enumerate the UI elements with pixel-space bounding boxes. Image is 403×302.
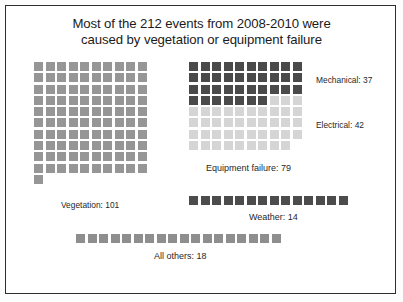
vegetation-cell bbox=[103, 96, 112, 105]
vegetation-cell bbox=[138, 152, 147, 161]
electrical-cell bbox=[189, 130, 198, 139]
mechanical-cell bbox=[247, 85, 256, 94]
weather-cell bbox=[270, 196, 279, 205]
vegetation-cell bbox=[69, 118, 78, 127]
electrical-cell bbox=[212, 118, 221, 127]
vegetation-cell bbox=[46, 73, 55, 82]
mechanical-cell bbox=[189, 62, 198, 71]
vegetation-cell bbox=[34, 152, 43, 161]
electrical-cell bbox=[235, 141, 244, 150]
mechanical-cell bbox=[212, 85, 221, 94]
vegetation-cell bbox=[80, 62, 89, 71]
all-others-cell bbox=[111, 234, 120, 243]
vegetation-cell bbox=[126, 164, 135, 173]
vegetation-cell bbox=[46, 130, 55, 139]
vegetation-cell bbox=[34, 118, 43, 127]
weather-cell bbox=[247, 196, 256, 205]
electrical-cell bbox=[235, 107, 244, 116]
vegetation-cell bbox=[115, 152, 124, 161]
all-others-cell bbox=[122, 234, 131, 243]
vegetation-cell bbox=[138, 130, 147, 139]
weather-waffle-grid bbox=[189, 196, 369, 207]
mechanical-cell bbox=[235, 73, 244, 82]
electrical-cell bbox=[270, 130, 279, 139]
electrical-cell bbox=[247, 107, 256, 116]
mechanical-cell bbox=[189, 96, 198, 105]
vegetation-label: Vegetation: 101 bbox=[61, 200, 119, 210]
vegetation-cell bbox=[69, 141, 78, 150]
electrical-cell bbox=[281, 96, 290, 105]
vegetation-cell bbox=[92, 73, 101, 82]
mechanical-cell bbox=[258, 85, 267, 94]
weather-cell bbox=[327, 196, 336, 205]
electrical-cell bbox=[247, 118, 256, 127]
vegetation-cell bbox=[80, 118, 89, 127]
electrical-cell bbox=[235, 130, 244, 139]
electrical-cell bbox=[293, 118, 302, 127]
vegetation-cell bbox=[92, 96, 101, 105]
mechanical-cell bbox=[224, 62, 233, 71]
all-others-cell bbox=[191, 234, 200, 243]
electrical-cell bbox=[258, 107, 267, 116]
electrical-cell bbox=[212, 107, 221, 116]
vegetation-cell bbox=[69, 164, 78, 173]
vegetation-cell bbox=[69, 96, 78, 105]
vegetation-cell bbox=[34, 175, 43, 184]
all-others-cell bbox=[180, 234, 189, 243]
vegetation-cell bbox=[34, 96, 43, 105]
electrical-cell bbox=[224, 107, 233, 116]
vegetation-cell bbox=[138, 164, 147, 173]
mechanical-cell bbox=[258, 73, 267, 82]
electrical-cell bbox=[201, 141, 210, 150]
equipment-failure-label: Equipment failure: 79 bbox=[206, 163, 291, 173]
all-others-cell bbox=[145, 234, 154, 243]
vegetation-cell bbox=[115, 118, 124, 127]
all-others-cell bbox=[226, 234, 235, 243]
vegetation-cell bbox=[126, 141, 135, 150]
electrical-cell bbox=[189, 118, 198, 127]
vegetation-cell bbox=[138, 62, 147, 71]
vegetation-cell bbox=[46, 85, 55, 94]
all-others-cell bbox=[203, 234, 212, 243]
all-others-cell bbox=[272, 234, 281, 243]
vegetation-cell bbox=[103, 107, 112, 116]
vegetation-cell bbox=[126, 62, 135, 71]
vegetation-cell bbox=[126, 118, 135, 127]
vegetation-cell bbox=[80, 85, 89, 94]
vegetation-cell bbox=[103, 118, 112, 127]
mechanical-cell bbox=[201, 73, 210, 82]
electrical-cell bbox=[258, 141, 267, 150]
vegetation-cell bbox=[138, 85, 147, 94]
vegetation-cell bbox=[34, 62, 43, 71]
vegetation-cell bbox=[80, 164, 89, 173]
weather-cell bbox=[304, 196, 313, 205]
vegetation-cell bbox=[126, 85, 135, 94]
vegetation-cell bbox=[103, 73, 112, 82]
vegetation-cell bbox=[46, 152, 55, 161]
weather-cell bbox=[212, 196, 221, 205]
vegetation-cell bbox=[69, 152, 78, 161]
vegetation-cell bbox=[34, 164, 43, 173]
weather-cell bbox=[339, 196, 348, 205]
vegetation-cell bbox=[69, 130, 78, 139]
vegetation-cell bbox=[46, 118, 55, 127]
electrical-cell bbox=[212, 141, 221, 150]
all-others-cell bbox=[99, 234, 108, 243]
mechanical-cell bbox=[270, 73, 279, 82]
mechanical-cell bbox=[189, 85, 198, 94]
all-others-cell bbox=[237, 234, 246, 243]
vegetation-cell bbox=[115, 164, 124, 173]
vegetation-cell bbox=[138, 118, 147, 127]
vegetation-cell bbox=[80, 130, 89, 139]
mechanical-cell bbox=[281, 85, 290, 94]
vegetation-cell bbox=[138, 73, 147, 82]
vegetation-cell bbox=[46, 96, 55, 105]
electrical-cell bbox=[293, 96, 302, 105]
chart-title-line-1: Most of the 212 events from 2008-2010 we… bbox=[22, 16, 381, 32]
mechanical-cell bbox=[201, 85, 210, 94]
mechanical-cell bbox=[293, 73, 302, 82]
chart-frame: Most of the 212 events from 2008-2010 we… bbox=[5, 5, 396, 294]
vegetation-cell bbox=[69, 85, 78, 94]
electrical-cell bbox=[235, 118, 244, 127]
vegetation-cell bbox=[92, 85, 101, 94]
